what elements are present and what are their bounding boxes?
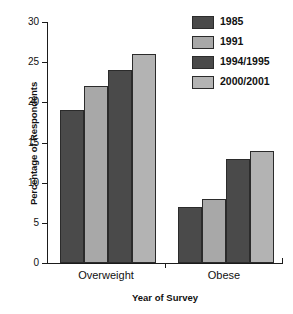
y-axis-tick-label: 0 [33, 257, 39, 268]
legend-label: 1985 [220, 15, 243, 27]
y-axis-tick: 5 [42, 223, 47, 224]
bar-chart: Percentage of Respondents 051015202530Ov… [0, 0, 293, 314]
legend-swatch [192, 16, 214, 29]
x-axis-title: Year of Survey [47, 292, 283, 303]
bar [60, 110, 84, 263]
x-axis-group-label: Obese [165, 269, 283, 281]
y-axis-tick: 20 [42, 102, 47, 103]
bar [108, 70, 132, 263]
legend-swatch [192, 56, 214, 69]
y-axis-tick: 25 [42, 62, 47, 63]
y-axis-tick: 10 [42, 183, 47, 184]
x-axis-group-separator-tick [165, 263, 166, 268]
bar [178, 207, 202, 263]
legend-swatch [192, 76, 214, 89]
legend-label: 1994/1995 [220, 55, 270, 67]
legend-label: 1991 [220, 35, 243, 47]
y-axis-tick: 30 [42, 22, 47, 23]
bar [226, 159, 250, 263]
legend-label: 2000/2001 [220, 75, 270, 87]
x-axis-group-label: Overweight [47, 269, 165, 281]
bar [84, 86, 108, 263]
y-axis-tick-label: 15 [28, 137, 39, 148]
y-axis-tick: 15 [42, 143, 47, 144]
bar [250, 151, 274, 263]
y-axis-line [47, 22, 48, 264]
y-axis-tick-label: 20 [28, 96, 39, 107]
legend-swatch [192, 36, 214, 49]
y-axis-tick-label: 25 [28, 56, 39, 67]
bar [202, 199, 226, 263]
bar [132, 54, 156, 263]
y-axis-tick-label: 5 [33, 217, 39, 228]
x-axis-end-tick [282, 258, 283, 263]
y-axis-tick-label: 30 [28, 16, 39, 27]
y-axis-tick-label: 10 [28, 177, 39, 188]
y-axis-tick: 0 [42, 263, 47, 264]
